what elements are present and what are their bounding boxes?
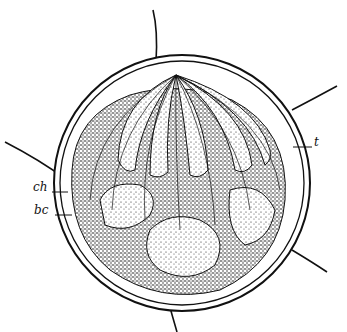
label-ch: ch: [33, 181, 47, 193]
label-bc: bc: [34, 204, 48, 216]
cell-drawing: [0, 0, 347, 332]
label-t: t: [314, 136, 319, 148]
figure-illustration: ch bc t: [0, 0, 347, 332]
